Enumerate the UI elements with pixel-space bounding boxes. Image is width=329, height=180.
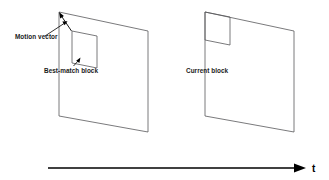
motion-estimation-figure: Motion vector Best-match block Current b… bbox=[0, 0, 329, 180]
time-axis-label: t bbox=[312, 163, 316, 174]
current-block-label: Current block bbox=[186, 67, 229, 74]
current-block-outline bbox=[205, 12, 230, 45]
motion-vector-label: Motion vector bbox=[15, 33, 58, 40]
best-match-block-label: Best-match block bbox=[44, 67, 98, 74]
time-axis-arrow bbox=[48, 164, 306, 173]
diagram-canvas: Motion vector Best-match block Current b… bbox=[0, 0, 329, 180]
best-match-block-outline bbox=[72, 31, 97, 68]
